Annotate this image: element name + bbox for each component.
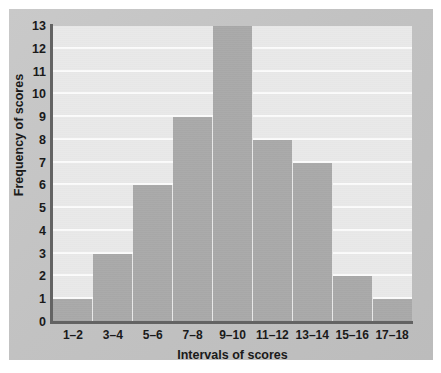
bar — [173, 117, 213, 322]
x-axis-tick-labels: 1–23–45–67–89–1011–1213–1415–1617–18 — [53, 328, 412, 342]
x-axis-tick-label: 11–12 — [252, 328, 292, 342]
y-axis-tick-label: 1 — [24, 293, 46, 306]
y-axis-tick-label: 4 — [24, 225, 46, 238]
x-axis-title: Intervals of scores — [53, 348, 412, 362]
bar — [333, 276, 373, 322]
x-axis-tick-label: 15–16 — [332, 328, 372, 342]
y-axis-tick-label: 2 — [24, 270, 46, 283]
y-axis-tick-label: 7 — [24, 157, 46, 170]
y-axis-tick-label: 6 — [24, 179, 46, 192]
bar-series — [53, 26, 412, 322]
x-axis-tick-label: 7–8 — [173, 328, 213, 342]
y-axis-tick-label: 10 — [24, 88, 46, 101]
bar — [93, 254, 133, 322]
y-axis-tick-label: 11 — [24, 66, 46, 79]
y-axis-tick-label: 3 — [24, 248, 46, 261]
x-axis-tick-label: 3–4 — [93, 328, 133, 342]
x-axis-line — [50, 321, 413, 324]
y-axis-tick-label: 12 — [24, 43, 46, 56]
bar — [133, 185, 173, 322]
y-axis-tick-label: 9 — [24, 111, 46, 124]
bar — [253, 140, 293, 322]
y-axis-tick-label: 0 — [24, 316, 46, 329]
y-axis-line — [50, 24, 53, 324]
y-axis-tick-label: 5 — [24, 202, 46, 215]
x-axis-tick-label: 1–2 — [53, 328, 93, 342]
bar — [53, 299, 93, 322]
x-axis-tick-label: 5–6 — [133, 328, 173, 342]
x-axis-tick-label: 17–18 — [372, 328, 412, 342]
plot-area — [53, 26, 412, 322]
x-axis-tick-label: 13–14 — [292, 328, 332, 342]
x-axis-tick-label: 9–10 — [213, 328, 253, 342]
bar — [213, 26, 253, 322]
bar — [293, 163, 333, 322]
y-axis-tick-label: 13 — [24, 20, 46, 33]
histogram-figure: 012345678910111213 Frequency of scores 1… — [0, 0, 441, 373]
y-axis-title: Frequency of scores — [12, 50, 26, 220]
y-axis-tick-label: 8 — [24, 134, 46, 147]
bar — [373, 299, 412, 322]
